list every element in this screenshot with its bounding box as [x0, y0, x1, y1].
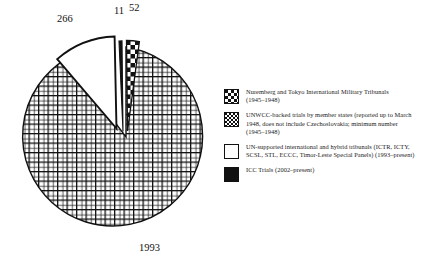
legend-label-icc-trials: ICC Trials (2002–present)	[246, 166, 314, 174]
pie-label-icc-trials: 11	[114, 6, 124, 17]
legend-line-2: (1945–1948)	[246, 96, 389, 104]
pie-chart-plot-area: 266 11 52 1993	[0, 0, 222, 264]
legend-line-3: (1945–1948)	[246, 128, 411, 136]
legend-line-1: UN-supported international and hybrid tr…	[246, 143, 414, 151]
legend-swatch-fine-check-icon	[224, 112, 239, 127]
legend-item-unwcc-backed: UNWCC-backed trials by member states (re…	[224, 111, 438, 136]
pie-chart-svg	[0, 0, 222, 264]
chart-legend: Nuremberg and Tokyo International Milita…	[224, 88, 438, 189]
legend-item-nuremberg-tokyo: Nuremberg and Tokyo International Milita…	[224, 88, 438, 104]
pie-chart-figure: 266 11 52 1993 Nuremberg and Tokyo Inter…	[0, 0, 442, 264]
legend-swatch-black-icon	[224, 167, 239, 182]
legend-swatch-white-icon	[224, 144, 239, 159]
pie-slice-icc-trials	[119, 41, 123, 132]
pie-label-unwcc-backed: 1993	[139, 243, 160, 254]
legend-label-un-supported: UN-supported international and hybrid tr…	[246, 143, 414, 159]
pie-label-nuremberg-tokyo: 52	[129, 3, 140, 14]
legend-swatch-coarse-check-icon	[224, 89, 239, 104]
legend-label-unwcc-backed: UNWCC-backed trials by member states (re…	[246, 111, 411, 136]
legend-line-2: SCSL, STL, ECCC, Timor-Leste Special Pan…	[246, 151, 414, 159]
pie-label-un-supported: 266	[57, 14, 73, 25]
legend-line-1: UNWCC-backed trials by member states (re…	[246, 111, 411, 119]
legend-line-1: ICC Trials (2002–present)	[246, 166, 314, 174]
legend-item-icc-trials: ICC Trials (2002–present)	[224, 166, 438, 182]
legend-line-2: 1948, does not include Czechoslovakia; m…	[246, 120, 411, 128]
legend-item-un-supported: UN-supported international and hybrid tr…	[224, 143, 438, 159]
legend-line-1: Nuremberg and Tokyo International Milita…	[246, 88, 389, 96]
legend-label-nuremberg-tokyo: Nuremberg and Tokyo International Milita…	[246, 88, 389, 104]
